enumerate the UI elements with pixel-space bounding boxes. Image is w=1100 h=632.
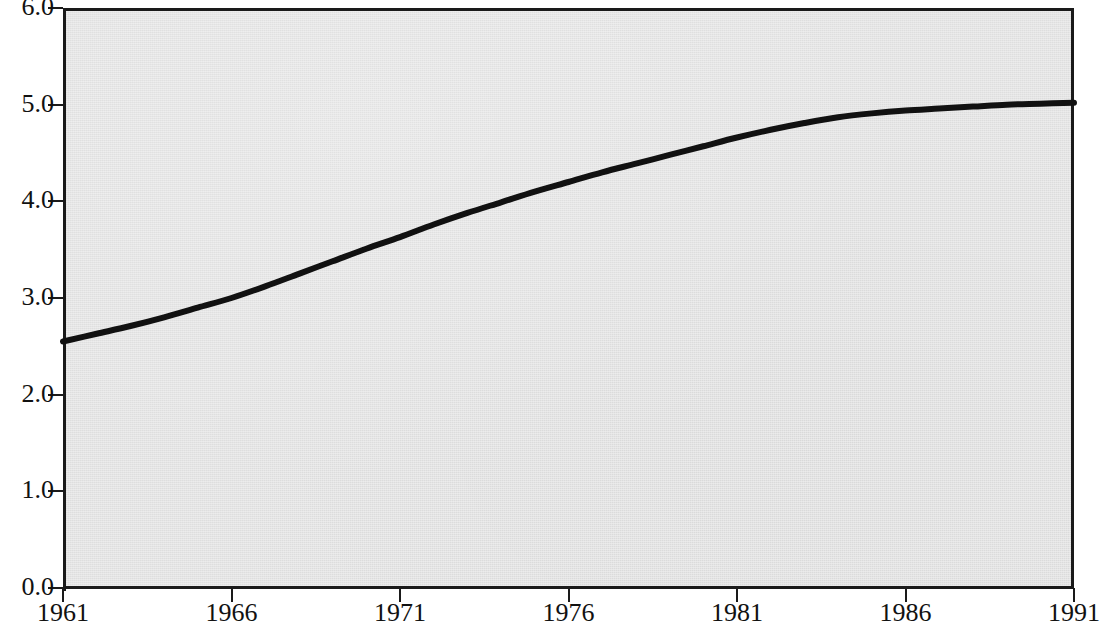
plot-frame-right-border: [1071, 8, 1074, 588]
y-axis-tick-label: 6.0: [2, 0, 54, 20]
plot-paper-texture: [63, 8, 1074, 588]
x-axis-tick-label: 1991: [1014, 598, 1100, 628]
plot-area: [63, 8, 1074, 588]
y-axis-tick-label: 3.0: [2, 284, 54, 310]
x-axis-tick-label: 1966: [172, 598, 292, 628]
y-axis-tick-label: 2.0: [2, 381, 54, 407]
x-axis-tick-label: 1961: [3, 598, 123, 628]
plot-frame-top-border: [63, 8, 1074, 11]
y-axis-tick-label: 1.0: [2, 477, 54, 503]
y-axis-line: [63, 8, 66, 591]
x-axis-tick-label: 1986: [846, 598, 966, 628]
y-axis-tick-label: 5.0: [2, 91, 54, 117]
line-chart: 0.01.02.03.04.05.06.0 196119661971197619…: [0, 0, 1100, 632]
x-axis-tick-label: 1976: [509, 598, 629, 628]
x-axis-tick-label: 1971: [340, 598, 460, 628]
y-axis-tick-label: 4.0: [2, 187, 54, 213]
y-axis-tick-label: 0.0: [2, 574, 54, 600]
x-axis-tick-label: 1981: [677, 598, 797, 628]
